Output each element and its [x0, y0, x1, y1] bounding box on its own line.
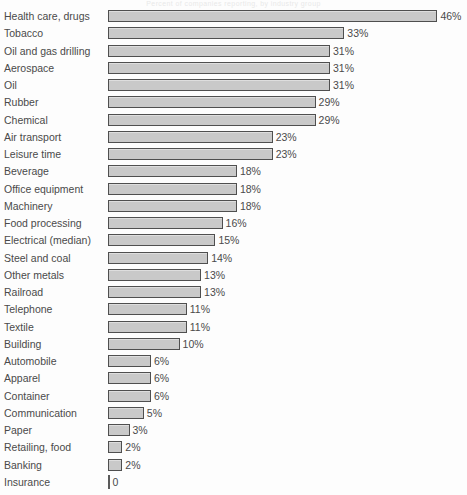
bar-track: 11%: [108, 319, 467, 336]
bar-track: 3%: [108, 422, 467, 439]
bar: [108, 234, 215, 246]
category-label: Beverage: [0, 163, 100, 180]
bar-value-label: 6%: [151, 370, 169, 387]
bar-row: Container6%: [0, 388, 467, 405]
bar-row: Banking2%: [0, 457, 467, 474]
bar: [108, 114, 316, 126]
bar: [108, 148, 273, 160]
category-label: Railroad: [0, 284, 100, 301]
bar-value-label: 31%: [330, 77, 354, 94]
bar: [108, 183, 237, 195]
bar-value-label: 10%: [180, 336, 204, 353]
category-label: Air transport: [0, 129, 100, 146]
bar: [108, 10, 437, 22]
bar-value-label: 13%: [201, 267, 225, 284]
bar-row: Air transport23%: [0, 129, 467, 146]
bar: [108, 424, 130, 436]
bar-track: 10%: [108, 336, 467, 353]
category-label: Tobacco: [0, 25, 100, 42]
bar: [108, 390, 151, 402]
category-label: Paper: [0, 422, 100, 439]
bar: [108, 441, 122, 453]
bar: [108, 217, 223, 229]
bar-track: 15%: [108, 232, 467, 249]
bar-row: Communication5%: [0, 405, 467, 422]
bar: [108, 459, 122, 471]
bar-row: Paper3%: [0, 422, 467, 439]
bar-track: 29%: [108, 94, 467, 111]
bar-row: Railroad13%: [0, 284, 467, 301]
bar-row: Machinery18%: [0, 198, 467, 215]
category-label: Leisure time: [0, 146, 100, 163]
bar-track: 6%: [108, 353, 467, 370]
bar: [108, 62, 330, 74]
bar: [108, 338, 180, 350]
bar-value-label: 3%: [130, 422, 148, 439]
category-label: Electrical (median): [0, 232, 100, 249]
bar-value-label: 15%: [215, 232, 239, 249]
bar-row: Office equipment18%: [0, 181, 467, 198]
category-label: Building: [0, 336, 100, 353]
bar-value-label: 31%: [330, 43, 354, 60]
bar-value-label: 6%: [151, 353, 169, 370]
bar-track: 18%: [108, 181, 467, 198]
horizontal-bar-chart: Percent of companies reporting, by indus…: [0, 0, 467, 495]
category-label: Steel and coal: [0, 250, 100, 267]
bar-row: Chemical29%: [0, 112, 467, 129]
bar-value-label: 13%: [201, 284, 225, 301]
bar-row: Automobile6%: [0, 353, 467, 370]
bar-row: Rubber29%: [0, 94, 467, 111]
bar-track: 23%: [108, 146, 467, 163]
bar-row: Building10%: [0, 336, 467, 353]
category-label: Office equipment: [0, 181, 100, 198]
bar-value-label: 2%: [122, 457, 140, 474]
chart-title-strip: Percent of companies reporting, by indus…: [0, 0, 467, 8]
category-label: Aerospace: [0, 60, 100, 77]
bar: [108, 321, 187, 333]
bar: [108, 372, 151, 384]
bar-track: 31%: [108, 60, 467, 77]
bar-track: 14%: [108, 250, 467, 267]
bar-track: 11%: [108, 301, 467, 318]
bar-track: 18%: [108, 198, 467, 215]
bar-track: 31%: [108, 43, 467, 60]
bar-value-label: 18%: [237, 163, 261, 180]
bar-value-label: 29%: [316, 94, 340, 111]
bar-track: 6%: [108, 388, 467, 405]
bar: [108, 27, 344, 39]
bar-row: Tobacco33%: [0, 25, 467, 42]
bar-track: 5%: [108, 405, 467, 422]
category-label: Oil and gas drilling: [0, 43, 100, 60]
bar-value-label: 5%: [144, 405, 162, 422]
bar-track: 16%: [108, 215, 467, 232]
bar-track: 18%: [108, 163, 467, 180]
category-label: Food processing: [0, 215, 100, 232]
bar-value-label: 18%: [237, 181, 261, 198]
bar: [108, 200, 237, 212]
bar: [108, 96, 316, 108]
bar-value-label: 11%: [187, 319, 210, 336]
bar-row: Electrical (median)15%: [0, 232, 467, 249]
bar: [108, 79, 330, 91]
bar: [108, 131, 273, 143]
bar-row: Oil31%: [0, 77, 467, 94]
bar-row: Retailing, food2%: [0, 439, 467, 456]
category-label: Apparel: [0, 370, 100, 387]
bar-row: Health care, drugs46%: [0, 8, 467, 25]
category-label: Oil: [0, 77, 100, 94]
bar: [108, 407, 144, 419]
bar-track: 33%: [108, 25, 467, 42]
bar-value-label: 18%: [237, 198, 261, 215]
bar-row: Food processing16%: [0, 215, 467, 232]
chart-plot-area: Health care, drugs46%Tobacco33%Oil and g…: [0, 8, 467, 495]
bar-row: Apparel6%: [0, 370, 467, 387]
bar-track: 23%: [108, 129, 467, 146]
bar-value-label: 31%: [330, 60, 354, 77]
bar-value-label: 23%: [273, 129, 297, 146]
bar-value-label: 11%: [187, 301, 210, 318]
bar-track: 2%: [108, 457, 467, 474]
bar: [108, 355, 151, 367]
bar-value-label: 16%: [223, 215, 247, 232]
bar-value-label: 14%: [208, 250, 232, 267]
category-label: Retailing, food: [0, 439, 100, 456]
